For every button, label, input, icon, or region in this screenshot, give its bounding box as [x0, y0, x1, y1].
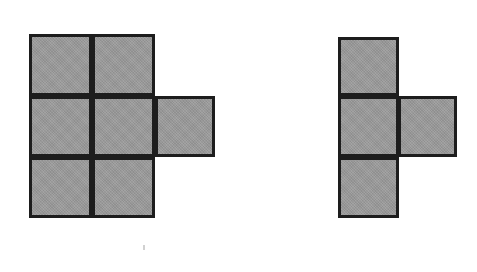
- left-cell-r3c2: [92, 157, 155, 218]
- right-cell-r2c2: [398, 96, 457, 157]
- right-cell-r2c1: [338, 96, 399, 157]
- right-cell-r1c1: [338, 37, 399, 96]
- left-cell-r2c3: [155, 96, 215, 157]
- left-cell-r2c2: [92, 96, 155, 157]
- left-cell-r1c2: [92, 34, 155, 96]
- left-cell-r1c1: [29, 34, 92, 96]
- left-cell-r2c1: [29, 96, 92, 157]
- scan-speck: [143, 245, 145, 250]
- right-cell-r3c1: [338, 157, 399, 218]
- left-cell-r3c1: [29, 157, 92, 218]
- figure-canvas: [0, 0, 477, 272]
